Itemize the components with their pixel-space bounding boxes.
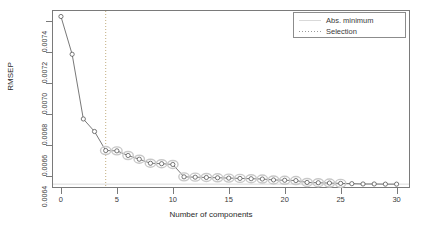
x-axis-tick-label: 10: [158, 195, 188, 204]
x-axis-tick: [117, 188, 118, 194]
x-axis-title: Number of components: [0, 210, 422, 219]
x-axis-tick-label: 20: [270, 195, 300, 204]
legend-entry-selection: Selection: [297, 26, 402, 37]
x-axis-tick: [285, 188, 286, 194]
legend-entry-abs-minimum: Abs. minimum: [297, 15, 402, 26]
x-axis-tick: [397, 188, 398, 194]
rmsep-chart: 0.00640.00660.00680.00700.00720.0074 051…: [0, 0, 422, 231]
x-axis-tick: [229, 188, 230, 194]
x-axis-tick-label: 30: [382, 195, 412, 204]
y-axis-title: RMSEP: [6, 47, 15, 107]
x-axis-tick: [61, 188, 62, 194]
x-axis-tick-label: 5: [102, 195, 132, 204]
legend-label-abs-minimum: Abs. minimum: [323, 16, 374, 25]
y-axis-tick-label: 0.0074: [41, 19, 48, 63]
x-axis-tick: [173, 188, 174, 194]
legend-label-selection: Selection: [323, 27, 357, 36]
legend-key-solid-line-icon: [297, 16, 323, 25]
x-axis-tick-label: 25: [326, 195, 356, 204]
x-axis-tick: [341, 188, 342, 194]
x-axis-tick-label: 0: [46, 195, 76, 204]
x-axis-tick-label: 15: [214, 195, 244, 204]
chart-legend: Abs. minimum Selection: [293, 12, 406, 38]
legend-key-dotted-line-icon: [297, 27, 323, 36]
